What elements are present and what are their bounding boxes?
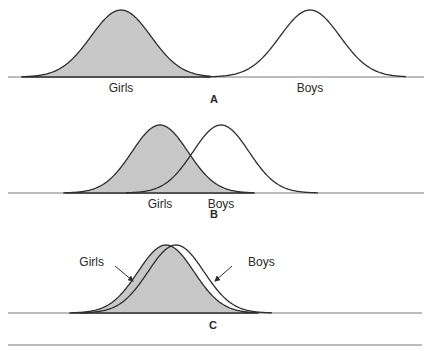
distribution-overlap-figure: Girls Boys A Girls Boys B Girls Boys C [0, 0, 430, 351]
panel-a-girls-label: Girls [109, 81, 134, 95]
panel-a-letter: A [210, 93, 218, 105]
panel-c-boys-arrow [215, 266, 232, 281]
panel-a-boys-curve [206, 10, 406, 77]
panel-c-boys-label: Boys [248, 255, 275, 269]
panel-b-girls-label: Girls [148, 197, 173, 211]
panel-a-girls-curve [22, 10, 210, 77]
panel-b-letter: B [210, 208, 218, 220]
panel-c-girls-arrow [115, 266, 133, 281]
panel-c-girls-label: Girls [79, 255, 104, 269]
panel-b: Girls Boys B [8, 125, 424, 220]
panel-c-letter: C [209, 319, 217, 331]
panel-a-boys-label: Boys [297, 81, 324, 95]
panel-a: Girls Boys A [8, 10, 424, 105]
panel-c: Girls Boys C [8, 245, 422, 331]
panel-b-girls-curve [64, 125, 254, 193]
